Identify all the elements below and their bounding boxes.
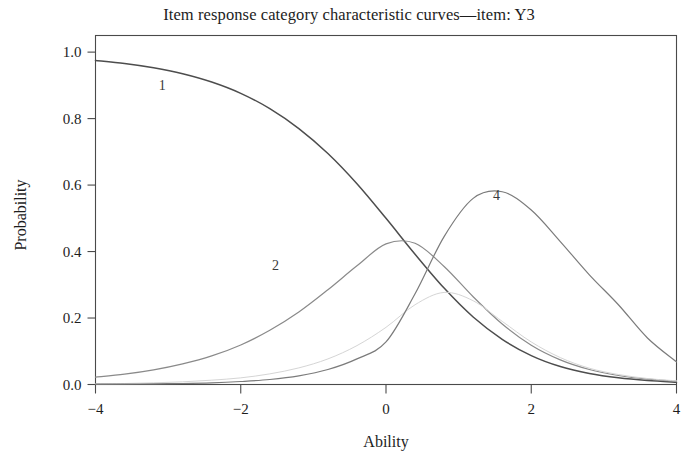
x-tick-label: −4: [88, 401, 104, 417]
y-tick-label: 1.0: [63, 44, 82, 60]
x-tick-label: 0: [382, 401, 390, 417]
x-tick-label: −2: [233, 401, 249, 417]
curve-label-4: 4: [493, 188, 500, 203]
item-response-chart: Item response category characteristic cu…: [0, 0, 699, 476]
y-tick-label: 0.6: [63, 177, 82, 193]
curve-label-2: 2: [272, 258, 279, 273]
y-tick-label: 0.8: [63, 111, 82, 127]
y-tick-label: 0.2: [63, 310, 82, 326]
chart-title: Item response category characteristic cu…: [163, 5, 535, 24]
chart-figure: Item response category characteristic cu…: [0, 0, 699, 476]
x-tick-label: 2: [528, 401, 536, 417]
y-tick-label: 0.0: [63, 377, 82, 393]
y-tick-label: 0.4: [63, 244, 82, 260]
curve-label-1: 1: [159, 78, 166, 93]
x-axis-label: Ability: [363, 433, 408, 451]
x-tick-label: 4: [673, 401, 681, 417]
y-axis-label: Probability: [12, 179, 30, 250]
chart-background: [0, 0, 699, 476]
